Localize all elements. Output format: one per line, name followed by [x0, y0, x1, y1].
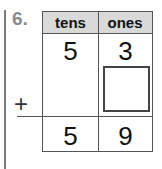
header-ones: ones: [98, 12, 152, 34]
problem-number: 6.: [12, 9, 28, 29]
addend1-ones: 3: [98, 37, 153, 65]
margin-bar: [4, 10, 6, 169]
plus-sign: +: [14, 92, 28, 116]
sum-tens: 5: [43, 122, 98, 150]
addend1-tens: 5: [43, 37, 98, 65]
header-tens: tens: [43, 12, 98, 34]
answer-input-box-ones[interactable]: [103, 66, 150, 112]
sum-ones: 9: [98, 122, 153, 150]
place-value-table: tens ones 5 3 5 9: [42, 11, 153, 152]
sum-line: [17, 116, 153, 117]
